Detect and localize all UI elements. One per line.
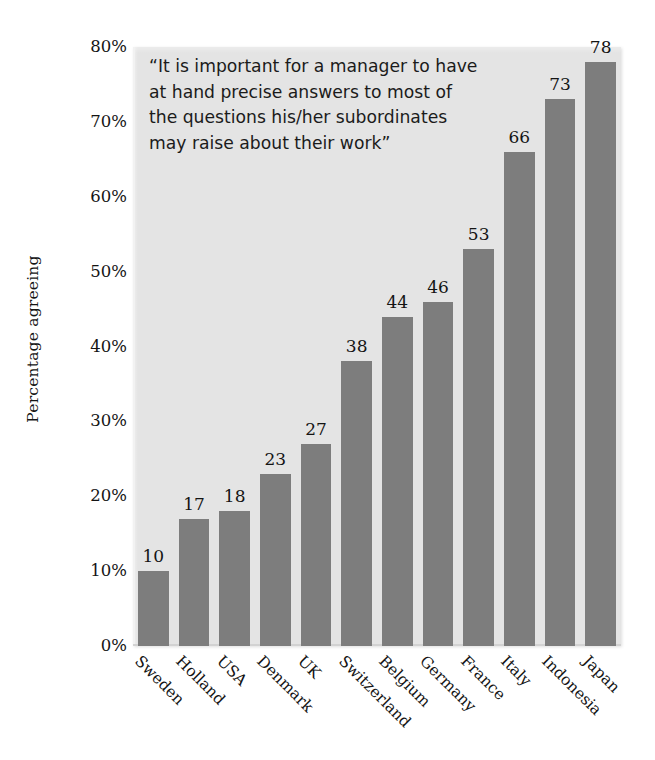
- x-axis-category-label: UK: [294, 652, 324, 682]
- bar-group[interactable]: 18: [219, 47, 250, 646]
- bar-group[interactable]: 38: [341, 47, 372, 646]
- y-axis-tick-label: 0%: [55, 638, 127, 655]
- bar-group[interactable]: 10: [138, 47, 169, 646]
- bar-group[interactable]: 44: [382, 47, 413, 646]
- bar-group[interactable]: 66: [504, 47, 535, 646]
- y-axis-title: Percentage agreeing: [24, 229, 42, 449]
- y-axis-tick-labels: 0%10%20%30%40%50%60%70%80%: [55, 0, 127, 760]
- y-axis-tick-label: 50%: [55, 263, 127, 280]
- bar-group[interactable]: 78: [585, 47, 616, 646]
- bar-group[interactable]: 46: [423, 47, 454, 646]
- bar-value-label: 44: [386, 294, 408, 311]
- bar-value-label: 23: [264, 451, 286, 468]
- y-axis-tick-label: 30%: [55, 413, 127, 430]
- bar[interactable]: [138, 571, 169, 646]
- bar-value-label: 53: [468, 226, 490, 243]
- y-axis-tick-label: 40%: [55, 338, 127, 355]
- bar-value-label: 27: [305, 421, 327, 438]
- y-axis-tick-label: 80%: [55, 39, 127, 56]
- bar-group[interactable]: 53: [463, 47, 494, 646]
- bar-value-label: 38: [346, 338, 368, 355]
- bar[interactable]: [463, 249, 494, 646]
- x-axis-category-label: USA: [213, 652, 250, 689]
- bar-value-label: 66: [508, 129, 530, 146]
- bar-value-label: 73: [549, 76, 571, 93]
- y-axis-tick-label: 20%: [55, 488, 127, 505]
- bar-value-label: 17: [183, 496, 205, 513]
- bar[interactable]: [301, 444, 332, 646]
- bar-value-label: 78: [590, 39, 612, 56]
- x-axis-category-label: Italy: [498, 652, 536, 690]
- bar[interactable]: [545, 99, 576, 646]
- y-axis-tick-label: 10%: [55, 563, 127, 580]
- bar[interactable]: [585, 62, 616, 646]
- plot-area: “It is important for a manager to have a…: [133, 47, 621, 646]
- y-axis-tick-label: 70%: [55, 114, 127, 131]
- bar[interactable]: [382, 317, 413, 646]
- bar-value-label: 18: [224, 488, 246, 505]
- bar[interactable]: [504, 152, 535, 646]
- bars-layer: 101718232738444653667378: [133, 47, 621, 646]
- bar-group[interactable]: 23: [260, 47, 291, 646]
- x-axis-category-labels: SwedenHollandUSADenmarkUKSwitzerlandBelg…: [133, 650, 633, 760]
- bar[interactable]: [423, 302, 454, 646]
- bar-value-label: 46: [427, 279, 449, 296]
- bar-group[interactable]: 27: [301, 47, 332, 646]
- bar-group[interactable]: 17: [179, 47, 210, 646]
- bar-group[interactable]: 73: [545, 47, 576, 646]
- bar[interactable]: [260, 474, 291, 646]
- bar[interactable]: [179, 519, 210, 646]
- y-axis-tick-label: 60%: [55, 189, 127, 206]
- chart-figure: Percentage agreeing 0%10%20%30%40%50%60%…: [0, 0, 655, 760]
- bar[interactable]: [219, 511, 250, 646]
- bar-value-label: 10: [142, 548, 164, 565]
- bar[interactable]: [341, 361, 372, 646]
